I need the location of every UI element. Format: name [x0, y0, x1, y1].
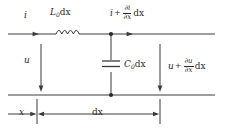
- node-dot-bottom: [109, 93, 113, 97]
- dimension-arrow-dx-right: [153, 112, 159, 116]
- label-position: x: [19, 108, 24, 117]
- voltage-out-suffix: dx: [195, 62, 206, 71]
- voltage-in-arrowhead: [39, 86, 44, 92]
- capacitor-symbol: C: [124, 59, 131, 69]
- capacitor-suffix: dx: [135, 59, 146, 69]
- label-voltage-in: u: [24, 56, 30, 65]
- label-current-out: i + ∂i ∂x dx: [110, 5, 144, 21]
- dimension-arrow-dx-left: [38, 112, 44, 116]
- voltage-out-operator: +: [175, 62, 182, 70]
- dimension-arrow-x: [30, 112, 36, 116]
- voltage-out-denominator: ∂x: [184, 67, 194, 75]
- circuit-figure: i L0dx i + ∂i ∂x dx u C0dx u + ∂u ∂x: [0, 0, 225, 129]
- label-current-in: i: [24, 11, 27, 20]
- current-out-arrowhead: [127, 32, 133, 37]
- current-out-operator: +: [114, 9, 121, 17]
- current-out-denominator: ∂x: [123, 14, 133, 22]
- label-length: dx: [92, 108, 103, 117]
- current-out-suffix: dx: [133, 9, 144, 18]
- current-in-arrowhead: [33, 32, 39, 37]
- voltage-out-arrowhead: [158, 86, 163, 92]
- voltage-out-base: u: [168, 62, 174, 71]
- current-out-fraction: ∂i ∂x: [123, 5, 133, 21]
- node-dot-top: [109, 32, 113, 36]
- inductor-subscript: 0: [56, 11, 60, 18]
- inductor-coil: [56, 30, 79, 34]
- position-text: x: [19, 107, 24, 117]
- label-capacitor: C0dx: [124, 60, 146, 69]
- capacitor-subscript: 0: [131, 63, 135, 70]
- current-in-text: i: [24, 10, 27, 20]
- current-out-base: i: [110, 9, 113, 18]
- voltage-in-text: u: [24, 55, 30, 65]
- inductor-suffix: dx: [60, 7, 71, 17]
- length-text: dx: [92, 107, 103, 117]
- label-inductor: L0dx: [50, 8, 71, 17]
- voltage-out-fraction: ∂u ∂x: [184, 58, 194, 74]
- label-voltage-out: u + ∂u ∂x dx: [168, 58, 205, 74]
